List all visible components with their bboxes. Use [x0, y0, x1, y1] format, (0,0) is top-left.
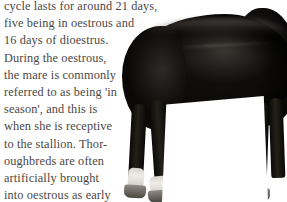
- book-page: cycle lasts for around 21 days, five bei…: [0, 0, 287, 202]
- text-line: 16 days of dioestrus.: [4, 32, 128, 49]
- text-line: oughbreds are often: [4, 153, 128, 170]
- text-line: cycle lasts for around 21 days,: [4, 0, 128, 15]
- text-line: season', and this is: [4, 101, 128, 118]
- body-text-column: cycle lasts for around 21 days, five bei…: [0, 0, 128, 202]
- horse-hind-leg-off: [269, 98, 286, 178]
- white-paper-overlay: [162, 96, 268, 202]
- horse-photograph: [118, 0, 287, 202]
- text-line: the mare is commonly: [4, 67, 128, 84]
- text-line: when she is receptive: [4, 118, 128, 135]
- text-line: referred to as being 'in: [4, 84, 128, 101]
- text-line: into oestrous as early: [4, 187, 128, 202]
- text-line: artificially brought: [4, 170, 128, 187]
- text-line: During the oestrous,: [4, 50, 128, 67]
- text-line: to the stallion. Thor-: [4, 136, 128, 153]
- text-line: five being in oestrous and: [4, 15, 128, 32]
